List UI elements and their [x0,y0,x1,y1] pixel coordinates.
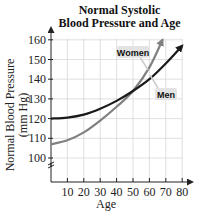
y-tick-label: 110 [28,131,46,145]
x-tick-label: 50 [127,185,139,199]
legend-men-text: Men [157,90,175,100]
y-tick-label: 130 [28,92,46,106]
y-tick-label: 150 [28,53,46,67]
x-tick-label: 10 [61,185,73,199]
men-leader-line [150,75,158,88]
x-tick-label: 60 [143,185,155,199]
y-tick-label: 100 [28,151,46,165]
x-tick-label: 40 [111,185,123,199]
x-tick-label: 20 [78,185,90,199]
y-tick-label: 160 [28,33,46,47]
y-tick-label: 140 [28,72,46,86]
x-tick-label: 30 [94,185,106,199]
legend-women-text: Women [117,48,149,58]
plot-area: 1001101201301401501601020304050607080Wom… [0,0,199,216]
x-tick-label: 70 [160,185,172,199]
women-leader-line [140,57,148,70]
y-tick-label: 120 [28,112,46,126]
x-tick-label: 80 [176,185,188,199]
